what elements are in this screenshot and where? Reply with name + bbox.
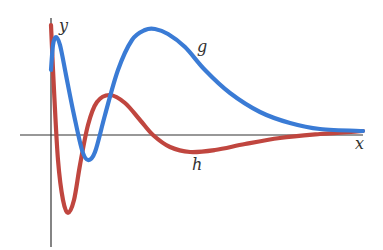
chart: y g h x bbox=[0, 0, 383, 250]
curve-g-label: g bbox=[197, 37, 207, 56]
curve-h-label: h bbox=[192, 155, 202, 174]
y-axis-label: y bbox=[58, 16, 69, 35]
x-axis-label: x bbox=[355, 134, 364, 153]
